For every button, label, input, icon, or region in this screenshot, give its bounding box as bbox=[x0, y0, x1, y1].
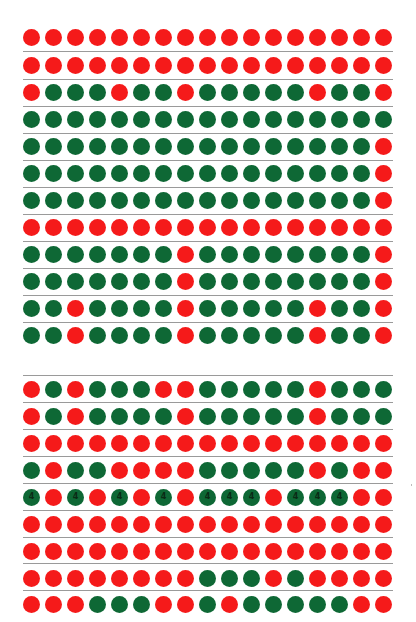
green-dot bbox=[155, 273, 172, 290]
green-dot bbox=[243, 138, 260, 155]
red-dot bbox=[177, 516, 194, 533]
red-dot bbox=[177, 381, 194, 398]
green-dot bbox=[243, 273, 260, 290]
green-dot bbox=[111, 381, 128, 398]
green-dot bbox=[221, 138, 238, 155]
green-dot bbox=[133, 84, 150, 101]
red-dot bbox=[353, 462, 370, 479]
red-dot bbox=[23, 29, 40, 46]
green-dot bbox=[133, 111, 150, 128]
green-dot bbox=[45, 165, 62, 182]
green-dot bbox=[111, 327, 128, 344]
red-dot bbox=[375, 219, 392, 236]
green-dot bbox=[353, 246, 370, 263]
green-dot bbox=[23, 327, 40, 344]
red-dot bbox=[23, 516, 40, 533]
green-dot bbox=[155, 165, 172, 182]
green-dot bbox=[199, 462, 216, 479]
green-dot bbox=[287, 327, 304, 344]
green-dot bbox=[309, 138, 326, 155]
red-dot bbox=[177, 462, 194, 479]
row-divider bbox=[23, 322, 393, 323]
red-dot bbox=[155, 462, 172, 479]
red-dot bbox=[155, 435, 172, 452]
red-dot bbox=[177, 435, 194, 452]
red-dot bbox=[177, 543, 194, 560]
green-dot bbox=[89, 84, 106, 101]
row-divider bbox=[23, 429, 393, 430]
row-divider bbox=[23, 375, 393, 376]
green-dot bbox=[155, 111, 172, 128]
red-dot bbox=[111, 29, 128, 46]
green-dot: 4 bbox=[111, 489, 128, 506]
red-dot bbox=[177, 570, 194, 587]
row-divider bbox=[23, 214, 393, 215]
green-dot bbox=[265, 246, 282, 263]
green-dot bbox=[243, 192, 260, 209]
red-dot bbox=[67, 516, 84, 533]
red-dot bbox=[287, 219, 304, 236]
red-dot bbox=[353, 57, 370, 74]
green-dot bbox=[287, 381, 304, 398]
red-dot bbox=[265, 570, 282, 587]
green-dot bbox=[309, 192, 326, 209]
row-divider bbox=[23, 160, 393, 161]
red-dot bbox=[353, 570, 370, 587]
row-divider bbox=[23, 187, 393, 188]
green-dot bbox=[221, 111, 238, 128]
green-dot bbox=[353, 273, 370, 290]
green-dot bbox=[375, 381, 392, 398]
red-dot bbox=[353, 543, 370, 560]
green-dot bbox=[89, 381, 106, 398]
red-dot bbox=[309, 29, 326, 46]
red-dot bbox=[111, 462, 128, 479]
red-dot bbox=[177, 246, 194, 263]
red-dot bbox=[221, 596, 238, 613]
red-dot bbox=[375, 273, 392, 290]
green-dot bbox=[67, 111, 84, 128]
row-divider bbox=[23, 590, 393, 591]
red-dot bbox=[177, 489, 194, 506]
green-dot: 4 bbox=[67, 489, 84, 506]
row-divider bbox=[23, 563, 393, 564]
green-dot bbox=[331, 84, 348, 101]
green-dot bbox=[287, 462, 304, 479]
red-dot bbox=[45, 462, 62, 479]
row-divider bbox=[23, 241, 393, 242]
green-dot bbox=[199, 381, 216, 398]
red-dot bbox=[133, 219, 150, 236]
red-dot bbox=[89, 29, 106, 46]
red-dot bbox=[265, 489, 282, 506]
green-dot bbox=[331, 111, 348, 128]
green-dot: 4 bbox=[309, 489, 326, 506]
green-dot bbox=[221, 84, 238, 101]
red-dot bbox=[287, 435, 304, 452]
green-dot bbox=[111, 165, 128, 182]
red-dot bbox=[243, 57, 260, 74]
red-dot bbox=[155, 570, 172, 587]
green-dot bbox=[23, 138, 40, 155]
green-dot bbox=[353, 138, 370, 155]
row-divider bbox=[23, 295, 393, 296]
red-dot bbox=[45, 219, 62, 236]
red-dot bbox=[45, 435, 62, 452]
red-dot bbox=[177, 29, 194, 46]
green-dot bbox=[133, 246, 150, 263]
red-dot bbox=[45, 57, 62, 74]
green-dot bbox=[133, 327, 150, 344]
red-dot bbox=[177, 327, 194, 344]
green-dot bbox=[221, 381, 238, 398]
red-dot bbox=[133, 29, 150, 46]
green-dot bbox=[287, 165, 304, 182]
red-dot bbox=[309, 300, 326, 317]
green-dot bbox=[67, 138, 84, 155]
red-dot bbox=[309, 543, 326, 560]
green-dot bbox=[353, 84, 370, 101]
green-dot bbox=[177, 111, 194, 128]
red-dot bbox=[177, 596, 194, 613]
red-dot bbox=[353, 435, 370, 452]
red-dot bbox=[89, 489, 106, 506]
red-dot bbox=[155, 219, 172, 236]
red-dot bbox=[45, 570, 62, 587]
green-dot bbox=[89, 138, 106, 155]
